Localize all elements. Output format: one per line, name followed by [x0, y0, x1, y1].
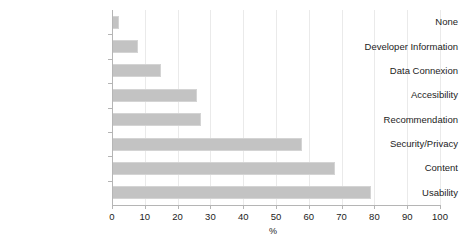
bar — [112, 186, 371, 199]
x-axis-tick — [210, 205, 211, 209]
gridline — [276, 10, 277, 205]
gridline — [440, 10, 441, 205]
x-axis-tick — [440, 205, 441, 209]
bar — [112, 113, 201, 126]
x-axis-tick-label: 100 — [420, 211, 460, 222]
gridline — [407, 10, 408, 205]
bar — [112, 138, 302, 151]
y-axis-label: None — [352, 16, 458, 27]
bar — [112, 162, 335, 175]
bar — [112, 64, 161, 77]
x-axis-title: % — [0, 226, 458, 236]
y-axis-label: Content — [352, 162, 458, 173]
x-axis-tick — [243, 205, 244, 209]
x-axis-tick — [178, 205, 179, 209]
y-axis-tick — [108, 83, 112, 84]
gridline — [145, 10, 146, 205]
y-axis-tick — [108, 34, 112, 35]
x-axis-title-text: % — [269, 226, 277, 236]
gridline — [342, 10, 343, 205]
y-axis-label: Data Connexion — [352, 65, 458, 76]
x-axis-tick — [407, 205, 408, 209]
y-axis-label: Accesibility — [352, 89, 458, 100]
x-axis-tick — [342, 205, 343, 209]
gridline — [374, 10, 375, 205]
y-axis-label: Usability — [352, 187, 458, 198]
y-axis-label: Security/Privacy — [352, 138, 458, 149]
y-axis-tick — [108, 132, 112, 133]
plot-area — [112, 10, 440, 205]
gridline — [210, 10, 211, 205]
gridline — [178, 10, 179, 205]
bar — [112, 40, 138, 53]
y-axis-line — [112, 10, 113, 205]
y-axis-tick — [108, 59, 112, 60]
gridline — [243, 10, 244, 205]
x-axis-tick — [374, 205, 375, 209]
x-axis-tick — [276, 205, 277, 209]
x-axis-tick — [309, 205, 310, 209]
y-axis-tick — [108, 108, 112, 109]
bar — [112, 89, 197, 102]
y-axis-label: Recommendation — [352, 114, 458, 125]
x-axis-tick — [145, 205, 146, 209]
y-axis-tick — [108, 156, 112, 157]
y-axis-label: Developer Information — [352, 41, 458, 52]
gridline — [309, 10, 310, 205]
y-axis-tick — [108, 181, 112, 182]
x-axis-tick — [112, 205, 113, 209]
